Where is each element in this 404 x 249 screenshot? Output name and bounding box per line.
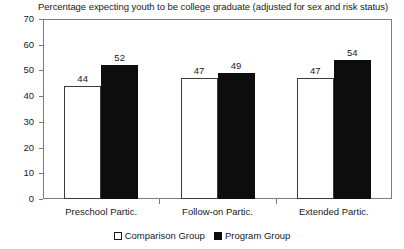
black-square-icon bbox=[214, 232, 222, 240]
y-axis-tick-label: 70 bbox=[23, 13, 34, 24]
x-axis-category-label: Extended Partic. bbox=[276, 206, 392, 218]
bar-program bbox=[218, 73, 255, 199]
y-axis-tick-label: 20 bbox=[23, 142, 34, 153]
bar-comparison bbox=[297, 78, 334, 199]
y-axis-tick-label: 40 bbox=[23, 90, 34, 101]
x-axis-category-label: Follow-on Partic. bbox=[159, 206, 275, 218]
bar-value-label: 54 bbox=[334, 47, 371, 58]
bar-comparison bbox=[64, 86, 101, 199]
bar-value-label: 47 bbox=[297, 65, 334, 76]
chart-legend: Comparison GroupProgram Group bbox=[0, 230, 404, 241]
x-axis-tick-mark bbox=[159, 199, 160, 204]
white-square-icon bbox=[114, 232, 122, 240]
bar-value-label: 52 bbox=[101, 52, 138, 63]
bar-comparison bbox=[181, 78, 218, 199]
legend-item-label: Comparison Group bbox=[125, 230, 205, 241]
x-axis-category-label: Preschool Partic. bbox=[43, 206, 159, 218]
bar-value-label: 47 bbox=[181, 65, 218, 76]
y-axis-tick-mark bbox=[39, 199, 43, 200]
y-axis-tick-label: 10 bbox=[23, 167, 34, 178]
bar-program bbox=[101, 65, 138, 199]
bar-value-label: 44 bbox=[64, 73, 101, 84]
legend-item: Comparison Group bbox=[114, 230, 205, 241]
y-axis-tick-label: 30 bbox=[23, 116, 34, 127]
y-axis-tick-label: 0 bbox=[29, 193, 34, 204]
legend-item-label: Program Group bbox=[225, 230, 290, 241]
bar-program bbox=[334, 60, 371, 199]
legend-item: Program Group bbox=[214, 230, 290, 241]
y-axis-tick-label: 50 bbox=[23, 64, 34, 75]
bars-layer: 445247494754 bbox=[43, 19, 392, 199]
bar-chart: Percentage expecting youth to be college… bbox=[0, 0, 404, 249]
x-axis-tick-mark bbox=[276, 199, 277, 204]
chart-title: Percentage expecting youth to be college… bbox=[38, 1, 402, 12]
y-axis-tick-label: 60 bbox=[23, 39, 34, 50]
bar-value-label: 49 bbox=[218, 60, 255, 71]
y-axis: 010203040506070 bbox=[0, 0, 43, 200]
